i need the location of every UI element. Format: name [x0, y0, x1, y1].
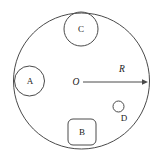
object-b-label: B: [79, 127, 85, 137]
object-c-label: C: [78, 24, 84, 34]
radius-label-r: R: [118, 64, 125, 74]
object-a-label: A: [27, 76, 34, 86]
diagram-svg: O R A C B D: [0, 0, 163, 163]
center-label-o: O: [73, 77, 80, 87]
object-d-circle: [113, 101, 124, 112]
figure-canvas: O R A C B D: [0, 0, 163, 163]
object-d-label: D: [121, 113, 128, 123]
radius-arrowhead-icon: [142, 79, 148, 85]
